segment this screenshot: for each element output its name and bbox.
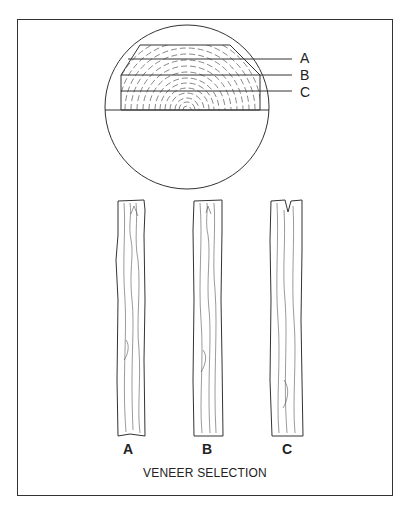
cut-label-a: A (300, 51, 309, 65)
cut-label-b: B (300, 68, 309, 82)
board-label-a: A (123, 442, 133, 456)
board-b (193, 200, 223, 436)
board-label-b: B (202, 442, 212, 456)
cut-label-c: C (300, 85, 310, 99)
board-a (116, 200, 145, 436)
figure-caption: VENEER SELECTION (0, 466, 410, 480)
log-cross-section (105, 25, 292, 189)
board-label-c: C (282, 442, 292, 456)
board-c (270, 200, 303, 436)
